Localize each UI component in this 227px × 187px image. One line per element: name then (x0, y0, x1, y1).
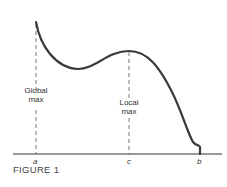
global-max-label-line2: max (20, 95, 52, 104)
local-max-label-line2: max (115, 107, 143, 116)
tick-label-c: c (127, 157, 131, 166)
local-max-label-line1: Local (115, 98, 143, 107)
local-max-label: Local max (115, 98, 143, 116)
tick-label-b: b (197, 157, 201, 166)
global-max-label-line1: Global (20, 86, 52, 95)
global-max-label: Global max (20, 86, 52, 104)
figure-caption: FIGURE 1 (13, 164, 59, 175)
function-curve (36, 22, 200, 154)
